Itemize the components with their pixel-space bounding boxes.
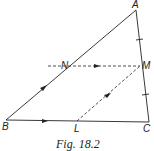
arrow-on-bc-icon: [42, 119, 48, 123]
figure-caption: Fig. 18.2: [56, 138, 100, 150]
label-m: M: [142, 61, 150, 71]
segment-lm-dashed: [77, 66, 140, 121]
arrow-on-lm-icon: [104, 93, 111, 98]
label-b: B: [2, 122, 9, 132]
label-a: A: [132, 0, 139, 10]
segment-ab: [6, 10, 136, 120]
arrow-on-nm-icon: [94, 64, 100, 68]
label-l: L: [74, 124, 80, 134]
label-n: N: [61, 61, 68, 71]
label-c: C: [143, 124, 150, 134]
tick-mc-icon: [142, 94, 149, 95]
tick-am-icon: [136, 39, 143, 40]
